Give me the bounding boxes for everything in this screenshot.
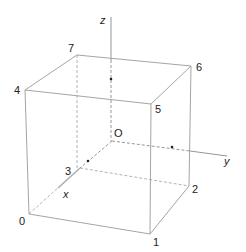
edge-3-2 [80, 168, 189, 186]
marked-points [87, 78, 174, 163]
axis-labels: x y z [62, 14, 231, 200]
cube-diagram: 0 1 2 3 4 5 6 7 O x y z [0, 0, 246, 252]
point-on-z-axis [110, 78, 113, 81]
edge-6-2 [189, 66, 191, 186]
origin-label: O [114, 127, 123, 139]
vertex-label-2: 2 [192, 183, 198, 195]
vertex-label-6: 6 [196, 61, 202, 73]
edge-5-6 [151, 66, 191, 104]
edge-6-7 [77, 55, 191, 66]
edge-4-5 [25, 90, 151, 104]
edge-1-2 [150, 186, 189, 234]
x-axis-inner [80, 141, 112, 168]
edge-7-4 [25, 55, 77, 90]
point-on-y-axis [171, 146, 174, 149]
vertex-label-7: 7 [68, 42, 74, 54]
y-axis-outer [190, 151, 227, 156]
axis-label-x: x [62, 188, 69, 200]
vertex-labels: 0 1 2 3 4 5 6 7 O [14, 42, 202, 248]
axes [58, 17, 227, 188]
point-on-x-axis [87, 160, 90, 163]
vertex-label-5: 5 [155, 103, 161, 115]
axis-label-y: y [223, 155, 231, 167]
vertex-label-3: 3 [65, 165, 71, 177]
vertex-label-0: 0 [19, 215, 25, 227]
vertex-label-4: 4 [14, 84, 20, 96]
axis-label-z: z [99, 14, 106, 26]
edge-5-1 [150, 104, 151, 234]
hidden-edges [29, 55, 189, 214]
edge-0-1 [29, 214, 150, 234]
edge-4-0 [25, 90, 29, 214]
vertex-label-1: 1 [153, 236, 159, 248]
